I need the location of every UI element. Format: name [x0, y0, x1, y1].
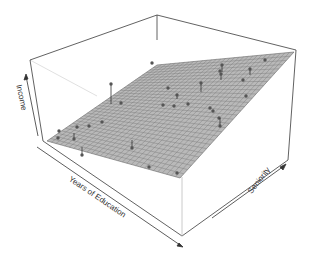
- y-axis-label: Seniority: [246, 165, 272, 195]
- z-axis-label: Income: [14, 84, 28, 112]
- data-point: [119, 101, 122, 104]
- data-point: [219, 72, 222, 75]
- data-point: [56, 136, 59, 139]
- data-point: [109, 82, 112, 85]
- data-point: [100, 120, 103, 123]
- regression-plane: [47, 52, 294, 178]
- data-point: [199, 81, 202, 84]
- data-point: [186, 102, 189, 105]
- data-point: [208, 106, 211, 109]
- data-point: [161, 103, 164, 106]
- data-point: [263, 58, 266, 61]
- data-point: [218, 69, 221, 72]
- data-point: [248, 67, 251, 70]
- data-point: [57, 129, 60, 132]
- data-point: [175, 93, 178, 96]
- data-point: [75, 125, 78, 128]
- data-point: [244, 94, 247, 97]
- data-point: [166, 86, 169, 89]
- data-point: [80, 153, 83, 156]
- x-axis-label: Years of Education: [67, 174, 127, 219]
- regression-plane-3d-plot: Income Years of Education Seniority: [0, 0, 311, 260]
- data-point: [147, 165, 150, 168]
- data-point: [218, 124, 221, 127]
- data-point: [220, 63, 223, 66]
- data-point: [87, 124, 90, 127]
- data-point: [211, 109, 214, 112]
- data-point: [72, 137, 75, 140]
- data-point: [241, 78, 244, 81]
- data-point: [150, 61, 153, 64]
- box-hidden-edges: [30, 60, 97, 96]
- data-point: [175, 171, 178, 174]
- data-point: [172, 104, 175, 107]
- data-point: [130, 146, 133, 149]
